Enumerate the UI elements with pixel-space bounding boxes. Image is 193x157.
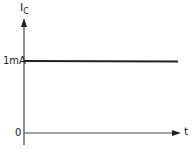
x-axis-arrow-icon: [172, 130, 181, 136]
ic-constant-line: [24, 61, 178, 62]
x-axis-label: t: [184, 127, 188, 137]
chart-canvas: [0, 0, 193, 157]
y-tick-1mA: 1mA: [3, 56, 26, 66]
y-tick-0: 0: [15, 128, 21, 138]
y-axis-label: IC: [20, 3, 29, 17]
y-axis-arrow-icon: [21, 18, 27, 27]
